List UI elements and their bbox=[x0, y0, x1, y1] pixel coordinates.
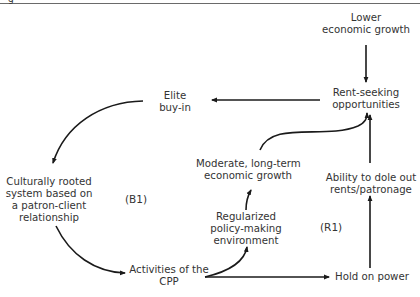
node-lower-economic-growth: Lower economic growth bbox=[320, 12, 412, 36]
arrow-activities-to-regularized bbox=[205, 247, 247, 277]
node-hold-on-power: Hold on power bbox=[332, 271, 412, 283]
arrow-elite-buyin-to-culturally-rooted bbox=[53, 101, 143, 163]
node-activities-of-the-cpp: Activities of the CPP bbox=[128, 264, 210, 288]
node-culturally-rooted-system: Culturally rooted system based on a patr… bbox=[0, 176, 98, 224]
node-rent-seeking-opportunities: Rent-seeking opportunities bbox=[320, 87, 412, 111]
node-ability-to-dole-out-rents: Ability to dole out rents/patronage bbox=[322, 172, 420, 196]
node-elite-buyin: Elite buy-in bbox=[150, 90, 200, 114]
node-moderate-economic-growth: Moderate, long-term economic growth bbox=[196, 158, 300, 182]
node-regularized-policy-environment: Regularized policy-making environment bbox=[206, 211, 286, 247]
arrow-regularized-to-moderate bbox=[246, 190, 251, 210]
loop-label-r1: (R1) bbox=[320, 221, 342, 233]
causal-links bbox=[0, 0, 420, 297]
arrow-moderate-to-rent-seeking bbox=[260, 113, 367, 150]
loop-label-b1: (B1) bbox=[125, 193, 147, 205]
arrow-culturally-rooted-to-activities bbox=[56, 226, 125, 273]
